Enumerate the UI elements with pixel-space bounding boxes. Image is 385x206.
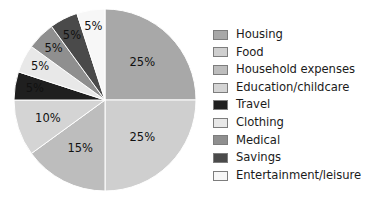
pie-slice-group	[14, 9, 196, 191]
pie-slice-value-label: 5%	[84, 19, 102, 33]
legend-item-label: Food	[236, 47, 264, 59]
legend-swatch-icon	[213, 100, 228, 110]
chart-legend: HousingFoodHousehold expensesEducation/c…	[213, 26, 385, 184]
legend-item-label: Housing	[236, 29, 283, 41]
legend-item-label: Savings	[236, 152, 281, 164]
legend-item[interactable]: Education/childcare	[213, 79, 385, 97]
pie-slice-value-label: 15%	[67, 141, 93, 155]
legend-swatch-icon	[213, 153, 228, 163]
pie-chart-svg: 25%25%15%10%5%5%5%5%5%	[13, 8, 197, 192]
legend-item-label: Medical	[236, 135, 280, 147]
legend-item-label: Entertainment/leisure	[236, 170, 361, 182]
legend-item[interactable]: Household expenses	[213, 61, 385, 79]
pie-chart-figure: 25%25%15%10%5%5%5%5%5% HousingFoodHouseh…	[0, 0, 385, 206]
pie-slice[interactable]	[105, 100, 196, 191]
legend-swatch-icon	[213, 47, 228, 57]
legend-swatch-icon	[213, 65, 228, 75]
legend-item[interactable]: Housing	[213, 26, 385, 44]
pie-slice-value-label: 10%	[35, 111, 61, 125]
pie-chart-plot-area: 25%25%15%10%5%5%5%5%5%	[13, 8, 197, 192]
legend-item[interactable]: Savings	[213, 149, 385, 167]
legend-item-label: Clothing	[236, 117, 284, 129]
legend-item[interactable]: Entertainment/leisure	[213, 167, 385, 185]
pie-slice-value-label: 5%	[31, 59, 49, 73]
pie-slice-value-label: 5%	[63, 28, 81, 42]
pie-slice-value-label: 5%	[26, 81, 44, 95]
legend-item[interactable]: Food	[213, 44, 385, 62]
legend-item-label: Travel	[236, 99, 270, 111]
legend-item[interactable]: Clothing	[213, 114, 385, 132]
legend-swatch-icon	[213, 83, 228, 93]
pie-slice-value-label: 25%	[130, 130, 156, 144]
legend-item-label: Education/childcare	[236, 82, 349, 94]
legend-item[interactable]: Medical	[213, 132, 385, 150]
legend-item-label: Household expenses	[236, 64, 355, 76]
legend-swatch-icon	[213, 171, 228, 181]
legend-swatch-icon	[213, 30, 228, 40]
legend-item[interactable]: Travel	[213, 96, 385, 114]
legend-swatch-icon	[213, 135, 228, 145]
legend-swatch-icon	[213, 118, 228, 128]
pie-slice-value-label: 25%	[130, 55, 156, 69]
pie-slice-value-label: 5%	[44, 41, 62, 55]
